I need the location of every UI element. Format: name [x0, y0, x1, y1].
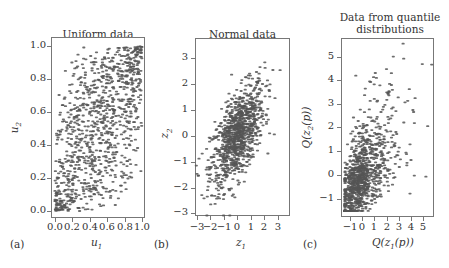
- panel-c-xlabel: Q(z1(p)): [372, 236, 414, 251]
- x-tick-mark: [125, 218, 126, 222]
- panel-c-ytick: 4: [304, 73, 334, 84]
- x-tick-mark: [399, 217, 400, 221]
- y-tick-mark: [47, 79, 51, 80]
- panel-c-ytick: 0: [304, 168, 334, 179]
- y-tick-mark: [337, 175, 341, 176]
- y-tick-mark: [47, 46, 51, 47]
- y-tick-mark: [337, 57, 341, 58]
- x-tick-mark: [387, 217, 388, 221]
- panel-c-tag: (c): [303, 238, 317, 250]
- y-tick-mark: [337, 151, 341, 152]
- panel-c-ylabel: Q(z2(p)): [300, 107, 315, 149]
- y-tick-mark: [191, 84, 195, 85]
- x-tick-mark: [90, 218, 91, 222]
- x-tick-mark: [264, 216, 265, 220]
- y-tick-mark: [191, 188, 195, 189]
- y-tick-mark: [337, 127, 341, 128]
- panel-c-ytick: 5: [304, 50, 334, 61]
- y-tick-mark: [47, 112, 51, 113]
- y-tick-mark: [191, 162, 195, 163]
- x-tick-mark: [142, 218, 143, 222]
- y-tick-mark: [47, 178, 51, 179]
- y-tick-mark: [191, 110, 195, 111]
- x-tick-mark: [251, 216, 252, 220]
- x-tick-mark: [55, 218, 56, 222]
- x-tick-mark: [278, 216, 279, 220]
- x-tick-mark: [237, 216, 238, 220]
- x-tick-mark: [210, 216, 211, 220]
- y-tick-mark: [337, 104, 341, 105]
- y-tick-mark: [337, 80, 341, 81]
- y-tick-mark: [191, 58, 195, 59]
- y-tick-mark: [47, 211, 51, 212]
- x-tick-mark: [72, 218, 73, 222]
- y-tick-mark: [47, 145, 51, 146]
- x-tick-mark: [374, 217, 375, 221]
- y-tick-mark: [191, 213, 195, 214]
- x-tick-mark: [350, 217, 351, 221]
- y-tick-mark: [337, 199, 341, 200]
- x-tick-mark: [197, 216, 198, 220]
- panel-c-ytick: −1: [304, 192, 334, 203]
- x-tick-mark: [362, 217, 363, 221]
- x-tick-mark: [423, 217, 424, 221]
- x-tick-mark: [224, 216, 225, 220]
- panel-c-xtick: 5: [413, 221, 433, 232]
- x-tick-mark: [107, 218, 108, 222]
- x-tick-mark: [411, 217, 412, 221]
- y-tick-mark: [191, 136, 195, 137]
